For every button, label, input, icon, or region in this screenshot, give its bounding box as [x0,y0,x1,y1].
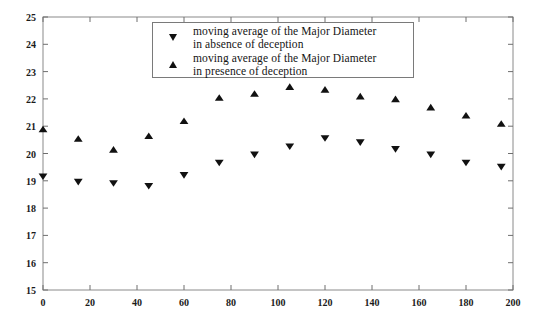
y-tick-label: 24 [26,39,36,50]
y-tick-label: 17 [26,230,36,241]
y-tick-label: 18 [26,203,36,214]
y-tick-label: 16 [26,258,36,269]
data-point [74,179,83,186]
data-point [426,104,435,111]
y-tick-label: 15 [26,285,36,296]
data-point [497,164,506,171]
y-axis-tick-labels: 1516171819202122232425 [26,12,36,296]
data-point [180,172,189,179]
triangle-down-marker-icon [153,34,193,41]
x-tick-label: 160 [412,297,427,308]
data-point [426,152,435,159]
data-point [74,135,83,142]
x-tick-label: 200 [506,297,521,308]
chart-figure: 020406080100120140160180200 151617181920… [0,0,538,331]
data-point [109,180,118,187]
x-tick-label: 140 [365,297,380,308]
data-point [285,143,294,150]
data-point [462,112,471,119]
data-point [39,173,48,180]
legend-label-presence: moving average of the Major Diameter in … [193,52,376,77]
x-axis-tick-labels: 020406080100120140160180200 [41,297,521,308]
legend-label-absence: moving average of the Major Diameter in … [193,25,376,50]
data-point [109,146,118,153]
x-tick-label: 20 [85,297,95,308]
data-point [144,132,153,139]
data-point [215,94,224,101]
data-point [144,183,153,190]
chart-legend: moving average of the Major Diameter in … [152,22,414,78]
x-tick-label: 100 [271,297,286,308]
data-point [180,117,189,124]
data-point [356,139,365,146]
y-tick-label: 20 [26,149,36,160]
series-absence-of-deception [39,135,506,189]
x-tick-label: 120 [318,297,333,308]
x-tick-label: 180 [459,297,474,308]
legend-entry-presence: moving average of the Major Diameter in … [153,51,413,78]
legend-entry-absence: moving average of the Major Diameter in … [153,24,413,51]
series-presence-of-deception [39,83,506,152]
x-tick-label: 60 [179,297,189,308]
data-point [321,86,330,93]
y-tick-label: 25 [26,12,36,23]
x-tick-label: 0 [41,297,46,308]
data-point [497,120,506,127]
triangle-up-marker-icon [153,61,193,68]
data-point [391,146,400,153]
y-tick-label: 19 [26,176,36,187]
data-point [250,90,259,97]
data-point [250,152,259,159]
data-point [462,160,471,167]
data-point [356,93,365,100]
y-tick-label: 21 [26,121,36,132]
x-tick-label: 80 [226,297,236,308]
data-point [321,135,330,142]
data-point [215,160,224,167]
data-point [391,96,400,103]
y-tick-label: 23 [26,67,36,78]
x-tick-label: 40 [132,297,142,308]
data-point [285,83,294,90]
y-tick-label: 22 [26,94,36,105]
